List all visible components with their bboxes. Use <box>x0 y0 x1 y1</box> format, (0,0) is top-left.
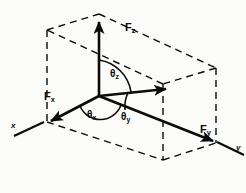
fy-label-sub: y <box>207 128 211 137</box>
box-top-face-edge-front <box>47 30 163 84</box>
x-axis-tick <box>14 122 44 136</box>
box-bottom-edge-right <box>163 143 216 160</box>
box-top-face-edge-back <box>99 14 216 68</box>
force-diagram-canvas <box>0 0 246 193</box>
dashed-box <box>47 14 216 160</box>
resultant-vector <box>99 89 166 96</box>
fx-label-sub: x <box>51 95 55 104</box>
theta-y-sub: y <box>126 116 130 123</box>
fz-label: Fz <box>125 22 135 33</box>
fy-vector <box>99 96 213 141</box>
force-vectors <box>51 22 213 141</box>
fz-label-base: F <box>125 21 132 33</box>
x-axis-label: x <box>11 122 15 130</box>
theta-z-sub: z <box>115 73 118 80</box>
y-axis-label: y <box>236 144 240 152</box>
box-top-face-edge-left <box>47 14 99 30</box>
theta-y-label: θy <box>121 112 130 122</box>
theta-x-sub: x <box>92 114 96 121</box>
theta-z-label: θz <box>110 69 119 79</box>
fx-label: Fx <box>44 91 55 102</box>
box-top-face-edge-right <box>163 68 216 84</box>
fy-label: Fy <box>200 124 211 135</box>
box-bottom-edge-left <box>47 122 163 160</box>
fz-label-sub: z <box>132 26 136 35</box>
figure-root: Fz Fx Fy θz θx θy x y <box>0 0 246 193</box>
fy-label-base: F <box>200 123 207 135</box>
fx-label-base: F <box>44 90 51 102</box>
theta-x-label: θx <box>87 110 96 120</box>
